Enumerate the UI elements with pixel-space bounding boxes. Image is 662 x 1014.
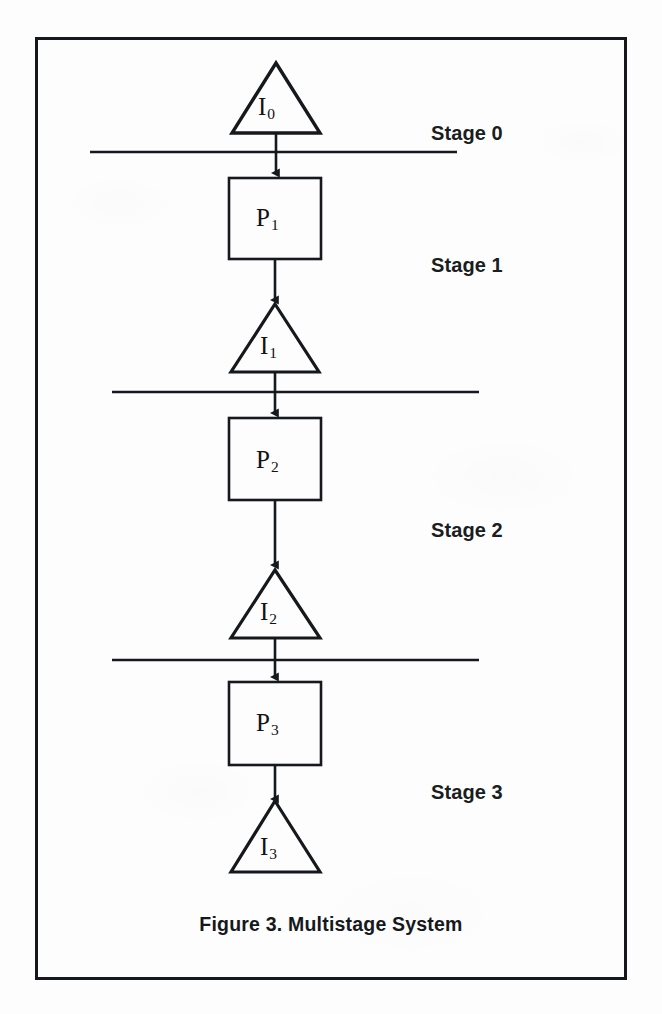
- stage-label-3: Stage 3: [431, 781, 503, 804]
- label-P1-symbol: P: [256, 204, 270, 231]
- label-I3-subscript: 3: [268, 845, 277, 862]
- label-I1: I1: [260, 333, 277, 361]
- stage-label-2: Stage 2: [431, 519, 503, 542]
- figure-page: I0 P1 I1 P2 I2 P3 I3 Stage 0 Stage 1 Sta…: [0, 0, 662, 1014]
- label-P2: P2: [256, 447, 279, 475]
- label-P2-symbol: P: [256, 446, 270, 473]
- label-I2: I2: [260, 599, 277, 627]
- label-P3-subscript: 3: [270, 721, 279, 738]
- stage-label-0: Stage 0: [431, 122, 503, 145]
- label-I2-subscript: 2: [268, 610, 277, 627]
- label-P3-symbol: P: [256, 709, 270, 736]
- label-I0-subscript: 0: [266, 105, 275, 122]
- multistage-system-diagram: [0, 0, 662, 1014]
- figure-caption: Figure 3. Multistage System: [0, 913, 662, 936]
- label-P1: P1: [256, 205, 279, 233]
- input-triangle-I0: [232, 63, 320, 133]
- label-I3: I3: [260, 834, 277, 862]
- label-P3: P3: [256, 710, 279, 738]
- label-P1-subscript: 1: [270, 216, 279, 233]
- stage-label-1: Stage 1: [431, 254, 503, 277]
- label-P2-subscript: 2: [270, 458, 279, 475]
- label-I0: I0: [258, 94, 275, 122]
- label-I1-subscript: 1: [268, 344, 277, 361]
